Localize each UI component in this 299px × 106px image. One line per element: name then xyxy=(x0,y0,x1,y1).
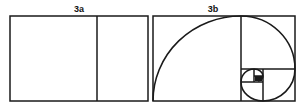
figure-3a-label: 3a xyxy=(74,4,85,14)
figure-3b: 3b xyxy=(153,4,295,101)
diagram-canvas: 3a 3b xyxy=(0,0,299,106)
figure-3b-outer-rectangle xyxy=(153,16,295,101)
figure-3a-outer-rectangle xyxy=(10,16,148,101)
figure-3b-label: 3b xyxy=(208,4,219,14)
golden-spiral xyxy=(153,16,295,101)
figure-3a: 3a xyxy=(10,4,148,101)
